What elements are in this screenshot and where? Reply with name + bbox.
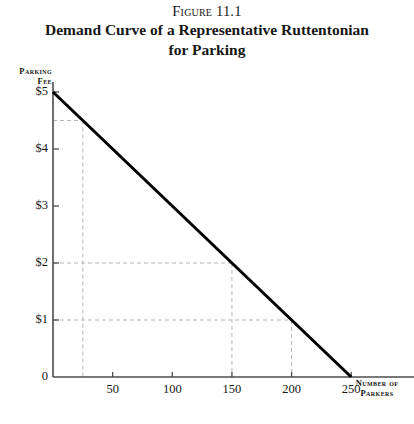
- demand-curve-chart: [0, 0, 414, 424]
- demand-curve-line: [53, 92, 351, 377]
- y-tick-label: $2: [14, 256, 48, 269]
- y-axis-title: Parking Fee: [0, 66, 52, 86]
- y-tick-label: $1: [14, 313, 48, 326]
- x-tick-label: 200: [272, 383, 312, 396]
- chart-svg: [0, 0, 414, 424]
- guide-lines-group: [53, 121, 292, 378]
- x-tick-label: 100: [152, 383, 192, 396]
- y-axis-title-line-1: Parking: [0, 66, 52, 76]
- x-tick-label: 150: [212, 383, 252, 396]
- x-tick-label: 250: [331, 383, 371, 396]
- y-tick-label: $3: [14, 199, 48, 212]
- y-tick-label: $4: [14, 142, 48, 155]
- y-tick-label: 0: [14, 370, 48, 383]
- x-tick-label: 50: [93, 383, 133, 396]
- y-tick-label: $5: [14, 85, 48, 98]
- demand-curve-series: [53, 92, 351, 377]
